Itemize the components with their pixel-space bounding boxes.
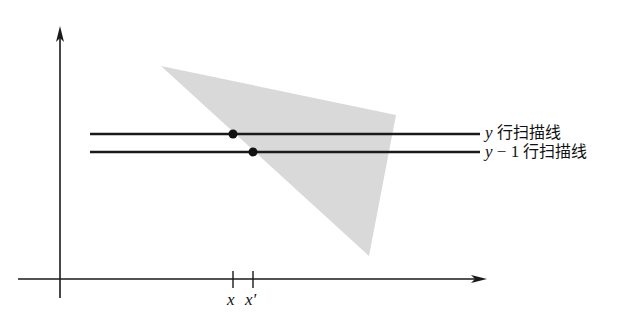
- scanline-y-minus-1-label: y − 1 行扫描线: [485, 143, 587, 160]
- scanline-y-suffix: 行扫描线: [497, 123, 561, 142]
- tick-label-x-prime: x′: [245, 291, 256, 308]
- scanline-y-minus-1-offset: − 1: [493, 142, 520, 161]
- scanline-diagram: y 行扫描线 y − 1 行扫描线 x x′: [0, 0, 623, 328]
- scanline-y-minus-1-var: y: [485, 142, 493, 161]
- scanline-y-var: y: [485, 123, 493, 142]
- tick-label-x-prime-text: x′: [245, 290, 256, 309]
- scanline-y-minus-1-suffix: 行扫描线: [523, 142, 587, 161]
- intersection-point-x: [229, 130, 238, 139]
- tick-label-x-text: x: [227, 290, 235, 309]
- polygon-shape: [161, 66, 396, 256]
- intersection-point-x-prime: [249, 148, 258, 157]
- scanline-y-label: y 行扫描线: [485, 124, 561, 141]
- tick-label-x: x: [227, 291, 235, 308]
